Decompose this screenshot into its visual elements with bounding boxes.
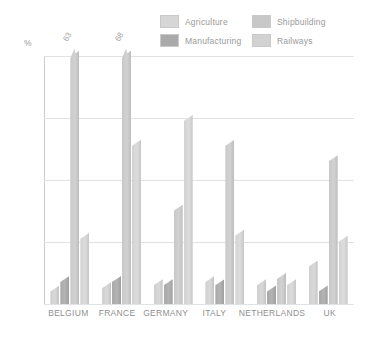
- bar-slot: [235, 56, 244, 304]
- bar-slot: [215, 56, 224, 304]
- bar-group: [199, 56, 251, 304]
- bar-shipbuilding-france[interactable]: [122, 49, 131, 304]
- bar-manufacturing-germany[interactable]: [164, 279, 173, 304]
- x-axis-label-uk: UK: [305, 308, 354, 318]
- bar-railways-germany[interactable]: [184, 115, 193, 304]
- bar-shipbuilding-netherlands[interactable]: [277, 273, 286, 304]
- x-axis-label-germany: GERMANY: [141, 308, 190, 318]
- legend-item-manufacturing[interactable]: Manufacturing: [160, 34, 252, 47]
- bar-slot: [112, 56, 121, 304]
- bar-slot: [329, 56, 338, 304]
- bar-agriculture-italy[interactable]: [205, 276, 214, 304]
- x-axis-category-labels: BELGIUMFRANCEGERMANYITALYNETHERLANDSUK: [44, 308, 354, 318]
- bar-slot: [257, 56, 266, 304]
- bar-chart: Agriculture Shipbuilding Manufacturing R…: [0, 0, 370, 345]
- y-axis-unit-label: %: [24, 38, 32, 48]
- bar-slot: [319, 56, 328, 304]
- bar-shipbuilding-germany[interactable]: [174, 205, 183, 304]
- legend-label-railways: Railways: [277, 36, 313, 46]
- plot-area: 403020100 6368: [44, 56, 354, 304]
- legend-label-agriculture: Agriculture: [185, 17, 228, 27]
- legend-label-shipbuilding: Shipbuilding: [277, 17, 326, 27]
- legend-swatch-railways: [252, 34, 271, 47]
- bar-group: [302, 56, 354, 304]
- x-axis-label-italy: ITALY: [190, 308, 239, 318]
- bar-agriculture-france[interactable]: [102, 282, 111, 304]
- bar-railways-belgium[interactable]: [80, 233, 89, 304]
- bar-group: 68: [96, 56, 148, 304]
- bar-group: 63: [44, 56, 96, 304]
- legend-swatch-manufacturing: [160, 34, 179, 47]
- legend-swatch-agriculture: [160, 15, 179, 28]
- bar-slot: [174, 56, 183, 304]
- bar-manufacturing-france[interactable]: [112, 276, 121, 304]
- legend-swatch-shipbuilding: [252, 15, 271, 28]
- bar-group: [251, 56, 303, 304]
- legend-label-manufacturing: Manufacturing: [185, 36, 241, 46]
- bar-manufacturing-belgium[interactable]: [60, 276, 69, 304]
- bar-railways-italy[interactable]: [235, 230, 244, 304]
- x-axis-label-belgium: BELGIUM: [44, 308, 93, 318]
- legend-item-railways[interactable]: Railways: [252, 34, 352, 47]
- bar-slot: 63: [70, 56, 79, 304]
- bar-agriculture-belgium[interactable]: [50, 285, 59, 304]
- bar-manufacturing-netherlands[interactable]: [267, 285, 276, 304]
- bar-slot: [339, 56, 348, 304]
- bar-slot: [50, 56, 59, 304]
- legend-item-shipbuilding[interactable]: Shipbuilding: [252, 15, 352, 28]
- bar-slot: [309, 56, 318, 304]
- bar-slot: [80, 56, 89, 304]
- bar-shipbuilding-belgium[interactable]: [70, 49, 79, 304]
- bar-shipbuilding-italy[interactable]: [225, 140, 234, 304]
- bar-slot: 68: [122, 56, 131, 304]
- bar-manufacturing-italy[interactable]: [215, 279, 224, 304]
- bar-slot: [154, 56, 163, 304]
- bar-slot: [287, 56, 296, 304]
- bar-slot: [102, 56, 111, 304]
- bar-value-label: 63: [62, 30, 74, 42]
- bar-group: [147, 56, 199, 304]
- bar-agriculture-germany[interactable]: [154, 279, 163, 304]
- x-axis-label-netherlands: NETHERLANDS: [239, 308, 306, 318]
- bar-agriculture-netherlands[interactable]: [257, 279, 266, 304]
- bar-railways-uk[interactable]: [339, 236, 348, 304]
- bar-slot: [277, 56, 286, 304]
- bar-slot: [267, 56, 276, 304]
- chart-legend: Agriculture Shipbuilding Manufacturing R…: [160, 12, 360, 50]
- bar-manufacturing-uk[interactable]: [319, 285, 328, 304]
- bar-agriculture-uk[interactable]: [309, 261, 318, 304]
- x-axis-label-france: FRANCE: [93, 308, 142, 318]
- bar-shipbuilding-uk[interactable]: [329, 155, 338, 304]
- bar-railways-france[interactable]: [132, 140, 141, 304]
- bar-slot: [164, 56, 173, 304]
- gridline: [44, 304, 354, 305]
- bar-railways-netherlands[interactable]: [287, 279, 296, 304]
- bar-groups: 6368: [44, 56, 354, 304]
- bar-slot: [225, 56, 234, 304]
- bar-slot: [60, 56, 69, 304]
- legend-item-agriculture[interactable]: Agriculture: [160, 15, 252, 28]
- bar-slot: [132, 56, 141, 304]
- bar-slot: [205, 56, 214, 304]
- bar-slot: [184, 56, 193, 304]
- bar-value-label: 68: [113, 30, 125, 42]
